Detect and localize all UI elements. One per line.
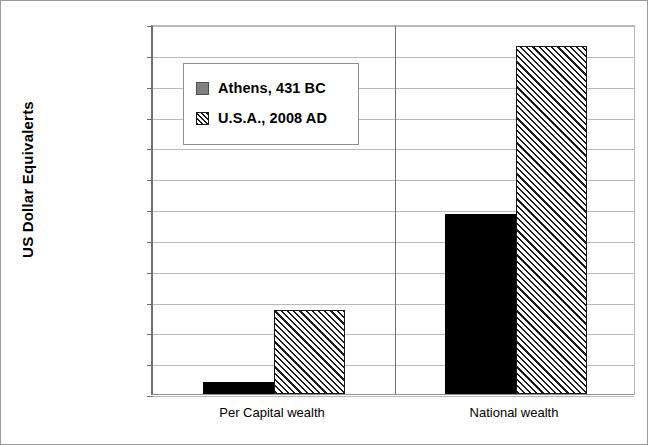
legend: Athens, 431 BC U.S.A., 2008 AD (183, 63, 359, 145)
y-axis-tick (147, 396, 153, 397)
y-axis-tick (147, 88, 153, 89)
x-axis-label-1: National wealth (394, 405, 634, 420)
y-axis-tick (147, 334, 153, 335)
y-axis-tick (147, 242, 153, 243)
gridline (153, 26, 634, 27)
bar-chart: US Dollar Equivalerts $1,000,000,000,000… (0, 0, 648, 445)
y-axis-tick (147, 365, 153, 366)
legend-swatch-solid-icon (196, 82, 209, 95)
gridline (153, 396, 634, 397)
legend-item-athens[interactable]: Athens, 431 BC (196, 73, 358, 103)
category-divider (395, 26, 396, 394)
y-axis-tick (147, 180, 153, 181)
bar-athens-1 (445, 214, 516, 394)
legend-item-usa[interactable]: U.S.A., 2008 AD (196, 103, 358, 133)
y-axis-tick (147, 26, 153, 27)
legend-swatch-hatched-icon (196, 112, 209, 125)
y-axis-tick (147, 211, 153, 212)
y-axis-tick (147, 149, 153, 150)
bar-athens-0 (203, 382, 274, 394)
legend-label-athens: Athens, 431 BC (218, 80, 326, 96)
y-axis-tick (147, 119, 153, 120)
y-axis-tick (147, 57, 153, 58)
y-axis-tick (147, 304, 153, 305)
bar-usa-1 (516, 46, 587, 394)
bar-usa-0 (274, 310, 345, 394)
y-axis-tick (147, 273, 153, 274)
y-axis-title: US Dollar Equivalerts (19, 60, 36, 300)
legend-label-usa: U.S.A., 2008 AD (218, 110, 327, 126)
x-axis-label-0: Per Capital wealth (152, 405, 392, 420)
